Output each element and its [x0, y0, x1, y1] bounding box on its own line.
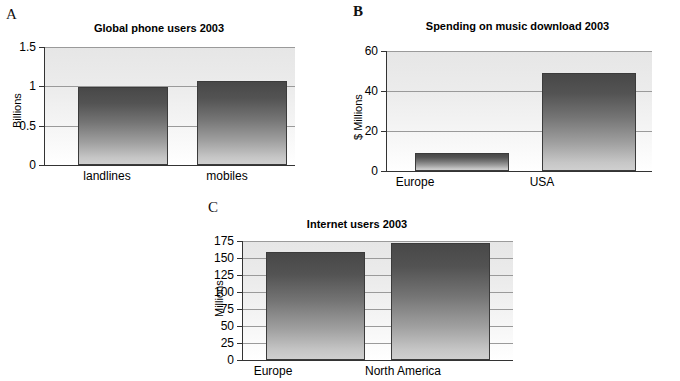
- panel-c-ytick-label-125: 125: [196, 268, 234, 282]
- panel-a-ytick-label-1: 1: [0, 79, 36, 93]
- panel-b-ytick-0: [381, 171, 386, 172]
- panel-a-ytick-1: [39, 86, 44, 87]
- panel-b-letter: B: [353, 3, 363, 20]
- panel-a-ytick-label-0: 0: [0, 158, 36, 172]
- panel-c-ytick-75: [237, 309, 242, 310]
- panel-b-bar-europe: [415, 153, 509, 171]
- panel-c-ytick-label-25: 25: [196, 336, 234, 350]
- panel-c-ytick-25: [237, 343, 242, 344]
- panel-b-plot-area: [386, 51, 652, 172]
- panel-c-ytick-label-150: 150: [196, 251, 234, 265]
- panel-b-ytick-60: [381, 51, 386, 52]
- panel-c-gridline-175: [243, 241, 513, 242]
- panel-c-ytick-150: [237, 258, 242, 259]
- panel-b-gridline-60: [387, 51, 652, 52]
- panel-a-gridline-1.5: [45, 47, 295, 48]
- panel-a-ytick-1.5: [39, 47, 44, 48]
- panel-c-ytick-label-100: 100: [196, 285, 234, 299]
- panel-c: C Internet users 2003 Millions 175 150 1…: [170, 195, 530, 381]
- panel-a-ytick-label-0.5: 0.5: [0, 119, 36, 133]
- panel-a-title: Global phone users 2003: [44, 22, 274, 34]
- panel-a-letter: A: [6, 6, 17, 23]
- panel-a-ytick-label-1.5: 1.5: [0, 40, 36, 54]
- panel-c-title: Internet users 2003: [272, 218, 442, 230]
- panel-c-ytick-0: [237, 360, 242, 361]
- panel-b-xtick-label-europe: Europe: [355, 175, 475, 189]
- panel-a-xtick-label-mobiles: mobiles: [167, 169, 287, 183]
- panel-c-ytick-175: [237, 241, 242, 242]
- panel-c-ytick-100: [237, 292, 242, 293]
- panel-a: A Global phone users 2003 Billions 1.5 1…: [0, 0, 340, 200]
- panel-b-title: Spending on music download 2003: [385, 20, 650, 32]
- panel-c-ytick-label-75: 75: [196, 302, 234, 316]
- panel-c-ytick-125: [237, 275, 242, 276]
- panel-a-ytick-0: [39, 165, 44, 166]
- panel-a-bar-landlines: [78, 87, 168, 165]
- panel-c-bar-north-america: [391, 243, 490, 360]
- panel-b-ytick-label-60: 60: [340, 44, 378, 58]
- panel-c-bar-europe: [266, 252, 365, 360]
- panel-b-xtick-label-usa: USA: [482, 175, 602, 189]
- panel-c-xtick-label-europe: Europe: [213, 364, 333, 378]
- panel-c-letter: C: [208, 199, 218, 216]
- panel-a-bar-mobiles: [197, 81, 287, 165]
- panel-c-plot-area: [242, 241, 513, 361]
- panel-a-xtick-label-landlines: landlines: [47, 169, 167, 183]
- panel-a-ytick-0.5: [39, 126, 44, 127]
- panel-b: B Spending on music download 2003 $ Mill…: [340, 0, 680, 200]
- panel-b-ytick-label-20: 20: [340, 124, 378, 138]
- panel-b-ytick-label-40: 40: [340, 84, 378, 98]
- panel-b-ytick-40: [381, 91, 386, 92]
- panel-b-ytick-20: [381, 131, 386, 132]
- panel-c-ytick-label-50: 50: [196, 319, 234, 333]
- panel-c-ytick-label-175: 175: [196, 234, 234, 248]
- panel-c-xtick-label-north-america: North America: [338, 364, 468, 378]
- panel-b-bar-usa: [542, 73, 636, 171]
- panel-a-plot-area: [44, 47, 295, 166]
- panel-c-ytick-50: [237, 326, 242, 327]
